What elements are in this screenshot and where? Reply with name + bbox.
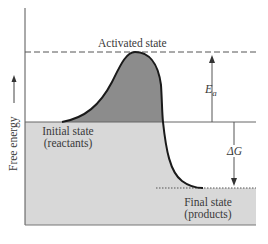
activation-energy-label: Ea [205,83,217,99]
initial-state-line2: (reactants) [38,137,98,149]
final-state-line1: Final state [180,196,236,208]
arrow-up-icon [12,75,17,82]
delta-g-label: ΔG [226,145,243,157]
arrow-up-icon [209,55,215,63]
initial-state-line1: Initial state [38,125,98,137]
y-axis-label: Free energy [7,117,19,171]
initial-state-label: Initial state (reactants) [38,125,98,149]
ea-subscript: a [212,88,217,98]
activated-state-label: Activated state [98,37,167,49]
final-state-label: Final state (products) [180,196,236,220]
activation-barrier-fill [62,52,163,122]
final-state-line2: (products) [180,208,236,220]
